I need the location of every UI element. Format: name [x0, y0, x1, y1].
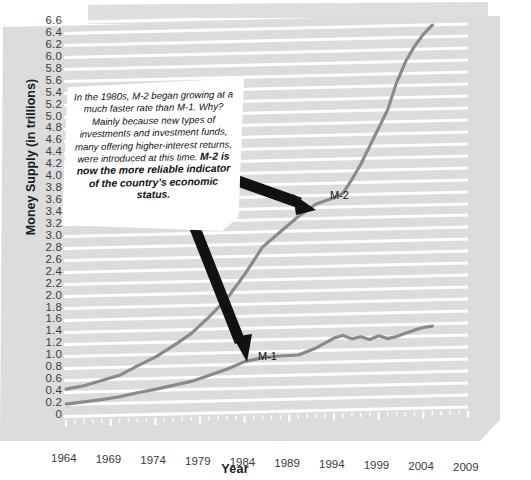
y-axis-tick-label: 3.4: [45, 206, 62, 217]
y-axis-title: Money Supply (in trillions): [24, 62, 38, 252]
y-axis-tick-label: 5.6: [45, 75, 62, 86]
y-axis-tick-label: 5.4: [45, 87, 62, 98]
y-axis-tick-label: 3.2: [45, 218, 62, 229]
y-axis-tick-label: 0: [55, 409, 62, 420]
x-axis-title: Year: [0, 462, 470, 476]
series-label-m2: M-2: [330, 189, 349, 201]
y-axis-tick-label: 6.0: [45, 51, 62, 62]
callout-box: In the 1980s, M-2 began growing at a muc…: [62, 78, 244, 231]
y-axis-tick-label: 4.0: [45, 170, 62, 181]
y-axis-tick-label: 5.2: [45, 99, 62, 110]
y-axis-tick-label: 2.2: [45, 278, 62, 289]
y-axis-tick-label: 0.8: [45, 361, 62, 372]
y-axis-tick-label: 5.8: [45, 63, 62, 74]
y-axis-tick-label: 0.2: [45, 397, 62, 408]
y-axis-tick-label: 6.6: [45, 15, 62, 26]
y-axis-tick-label: 6.4: [45, 27, 62, 38]
y-axis-tick-label: 6.2: [45, 39, 62, 50]
y-axis-tick-label: 2.0: [45, 290, 62, 301]
y-axis-tick-label: 1.6: [45, 313, 62, 324]
y-axis-tick-label: 2.8: [45, 242, 62, 253]
y-axis-tick-label: 3.8: [45, 182, 62, 193]
y-axis-tick-label: 4.8: [45, 122, 62, 133]
x-axis-ticks: 1964196919741979198419891994199920042009: [0, 442, 531, 462]
y-axis-tick-label: 4.6: [45, 134, 62, 145]
y-axis-tick-label: 5.0: [45, 111, 62, 122]
y-axis-tick-label: 1.4: [45, 325, 62, 336]
y-axis-tick-label: 0.4: [45, 385, 62, 396]
line-m1: [66, 326, 432, 404]
y-axis-tick-label: 1.2: [45, 337, 62, 348]
y-axis-tick-label: 4.2: [45, 158, 62, 169]
y-axis-tick-label: 0.6: [45, 373, 62, 384]
y-axis-tick-label: 3.6: [45, 194, 62, 205]
y-axis-tick-label: 1.0: [45, 349, 62, 360]
series-label-m1: M-1: [258, 350, 277, 362]
y-axis-tick-label: 4.4: [45, 146, 62, 157]
chart-figure: M-2 M-1 In the 1980s, M-2 began growing …: [0, 0, 531, 480]
y-axis-tick-label: 2.6: [45, 254, 62, 265]
y-axis-tick-label: 3.0: [45, 230, 62, 241]
y-axis-tick-label: 1.8: [45, 302, 62, 313]
y-axis-tick-label: 2.4: [45, 266, 62, 277]
callout-text: In the 1980s, M-2 began growing at a muc…: [72, 88, 235, 203]
